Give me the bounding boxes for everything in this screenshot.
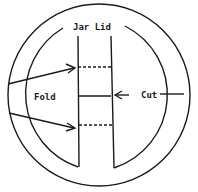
fold-arrow-top-shaft [8, 68, 74, 84]
fold-arrow-bottom-shaft [9, 113, 74, 128]
cut-label: Cut [141, 90, 157, 100]
jar-lid-diagram: Jar Lid Fold Cut [0, 0, 198, 192]
strip-left-edge [78, 36, 79, 167]
title-label: Jar Lid [73, 22, 111, 32]
fold-label: Fold [34, 92, 56, 102]
strip-right-edge [111, 36, 114, 168]
